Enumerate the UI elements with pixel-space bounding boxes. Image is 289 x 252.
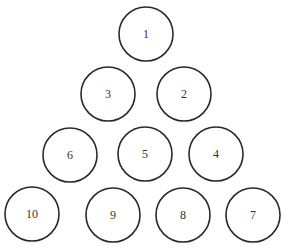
circle-label: 1	[143, 27, 149, 41]
circle-label: 4	[213, 147, 219, 161]
circle-5: 5	[118, 127, 172, 181]
circle-6: 6	[43, 128, 97, 182]
circle-3: 3	[81, 67, 135, 121]
circle-label: 10	[26, 207, 38, 221]
circle-label: 2	[181, 87, 187, 101]
circle-label: 9	[110, 208, 116, 222]
circle-label: 8	[180, 208, 186, 222]
circle-triangle-diagram: 1 3 2 6 5 4 10 9 8 7	[0, 0, 289, 252]
circle-7: 7	[226, 188, 280, 242]
circle-1: 1	[119, 7, 173, 61]
circle-2: 2	[157, 67, 211, 121]
circle-4: 4	[189, 127, 243, 181]
circle-label: 6	[67, 148, 73, 162]
circle-9: 9	[86, 188, 140, 242]
circle-label: 7	[250, 208, 256, 222]
circle-label: 5	[142, 147, 148, 161]
circle-10: 10	[5, 187, 59, 241]
circle-label: 3	[105, 87, 111, 101]
circle-8: 8	[156, 188, 210, 242]
